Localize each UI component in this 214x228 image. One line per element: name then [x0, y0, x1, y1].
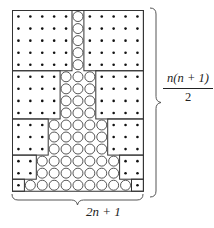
dot	[112, 124, 115, 127]
dot	[136, 124, 139, 127]
open-circle	[61, 180, 71, 190]
dot	[41, 51, 44, 54]
dot	[41, 136, 44, 139]
dot	[53, 27, 56, 30]
open-circle	[73, 156, 83, 166]
dot	[65, 51, 68, 54]
open-circle	[109, 156, 119, 166]
dot	[29, 136, 32, 139]
dot	[124, 88, 127, 91]
dot	[136, 112, 139, 115]
dot	[29, 160, 32, 163]
outer-frame	[13, 11, 144, 192]
dot	[29, 124, 32, 127]
dot	[112, 27, 115, 30]
dot	[124, 136, 127, 139]
open-circle	[97, 180, 107, 190]
dot	[100, 39, 103, 42]
open-circle	[73, 180, 83, 190]
dot	[41, 75, 44, 78]
dot	[65, 39, 68, 42]
right-dot-block	[96, 71, 144, 119]
open-circle	[49, 120, 59, 130]
dot	[136, 27, 139, 30]
dot	[29, 172, 32, 175]
open-circle	[97, 156, 107, 166]
open-circle	[121, 180, 131, 190]
dot	[53, 75, 56, 78]
dot	[124, 39, 127, 42]
open-circle	[73, 96, 83, 106]
open-circle	[73, 72, 83, 82]
dot	[112, 75, 115, 78]
open-circle	[97, 132, 107, 142]
dot	[124, 63, 127, 66]
dot	[89, 63, 92, 66]
dot	[29, 148, 32, 151]
open-circle	[61, 144, 71, 154]
open-circle	[85, 168, 95, 178]
dot	[124, 75, 127, 78]
open-circle	[73, 120, 83, 130]
dot	[17, 51, 20, 54]
dot	[17, 172, 20, 175]
dot	[100, 88, 103, 91]
open-circle	[61, 168, 71, 178]
open-circle	[49, 144, 59, 154]
dot	[112, 136, 115, 139]
dot	[29, 51, 32, 54]
dot	[100, 27, 103, 30]
open-circle	[61, 156, 71, 166]
dot	[124, 51, 127, 54]
right-brace	[150, 8, 161, 197]
dot	[17, 63, 20, 66]
dot	[112, 112, 115, 115]
dot	[124, 112, 127, 115]
open-circle	[97, 144, 107, 154]
dot	[29, 112, 32, 115]
dot	[136, 184, 139, 187]
dot	[17, 15, 20, 18]
height-label-denominator: 2	[163, 90, 213, 105]
dot	[17, 75, 20, 78]
dot	[136, 39, 139, 42]
dot	[17, 136, 20, 139]
dot	[41, 112, 44, 115]
dot	[136, 172, 139, 175]
open-circle	[25, 180, 35, 190]
open-circle	[85, 84, 95, 94]
dot	[41, 100, 44, 103]
open-circle	[61, 120, 71, 130]
dot	[124, 160, 127, 163]
dot	[29, 39, 32, 42]
open-circle	[85, 108, 95, 118]
dot	[65, 15, 68, 18]
open-circle	[73, 12, 83, 22]
dot	[41, 27, 44, 30]
dot	[124, 27, 127, 30]
dot	[41, 63, 44, 66]
open-circle	[61, 132, 71, 142]
dot	[41, 148, 44, 151]
open-circle	[49, 168, 59, 178]
open-circle	[85, 144, 95, 154]
dot	[17, 148, 20, 151]
open-circle	[61, 72, 71, 82]
open-circle	[97, 120, 107, 130]
dot	[53, 112, 56, 115]
height-label: n(n + 1) 2	[163, 71, 213, 105]
open-circle	[97, 168, 107, 178]
dot	[136, 100, 139, 103]
dot	[112, 88, 115, 91]
open-circle	[73, 48, 83, 58]
dot	[124, 15, 127, 18]
dot	[89, 15, 92, 18]
dot	[112, 51, 115, 54]
dot	[17, 124, 20, 127]
dot	[124, 100, 127, 103]
dot	[124, 172, 127, 175]
dot	[89, 27, 92, 30]
open-circle	[109, 168, 119, 178]
open-circle	[73, 144, 83, 154]
open-circle	[73, 168, 83, 178]
